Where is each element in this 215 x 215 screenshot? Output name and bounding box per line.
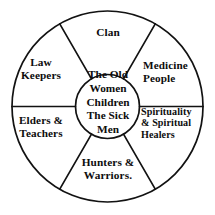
segment-label-clan: Clan bbox=[66, 26, 150, 39]
wheel-diagram: The Old Women Children The Sick Men Clan… bbox=[0, 0, 215, 215]
segment-label-spirituality-healers: Spirituality & Spiritual Healers bbox=[141, 106, 213, 140]
segment-label-law-keepers: Law Keepers bbox=[9, 56, 73, 82]
segment-label-medicine-people: Medicine People bbox=[143, 59, 207, 84]
segment-label-hunters-warriors: Hunters & Warriors. bbox=[64, 156, 152, 182]
center-core-text: The Old Women Children The Sick Men bbox=[71, 68, 145, 137]
segment-label-elders-teachers: Elders & Teachers bbox=[8, 114, 74, 139]
